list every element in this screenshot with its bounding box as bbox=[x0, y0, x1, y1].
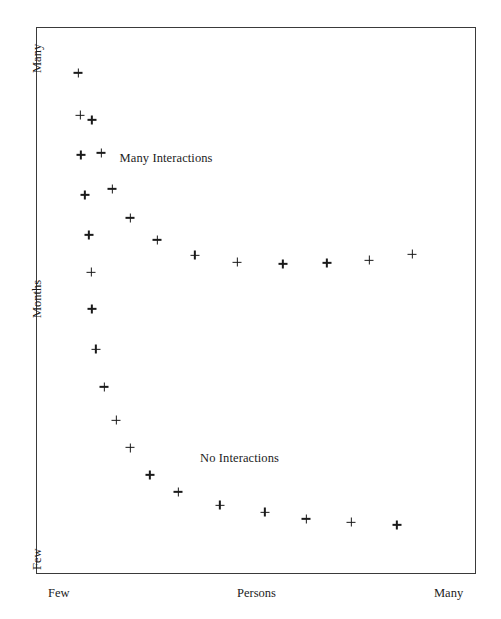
x-axis-tick-many: Many bbox=[434, 586, 463, 601]
x-axis-title: Persons bbox=[237, 586, 276, 601]
y-axis-title: Months bbox=[30, 280, 45, 318]
plot-annotation-no-interactions: No Interactions bbox=[200, 451, 279, 466]
y-axis-tick-many: Many bbox=[30, 44, 45, 73]
x-axis-tick-few: Few bbox=[48, 586, 70, 601]
plot-area-frame bbox=[36, 27, 476, 574]
plot-annotation-many-interactions: Many Interactions bbox=[120, 151, 213, 166]
scatter-chart-figure: Many InteractionsNo Interactions Many Mo… bbox=[0, 0, 501, 619]
y-axis-tick-few: Few bbox=[30, 548, 45, 570]
